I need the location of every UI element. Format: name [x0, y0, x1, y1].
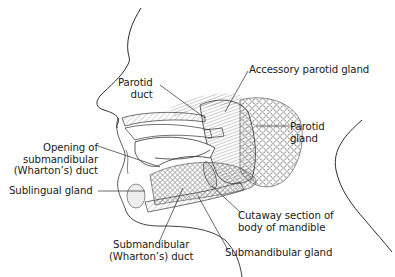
label-line: Opening of	[14, 142, 98, 154]
label-line: (Wharton’s) duct	[14, 165, 98, 177]
label-line: Parotid	[118, 77, 153, 89]
label-sublingual-gland: Sublingual gland	[9, 185, 93, 197]
label-submandibular-duct: Submandibular (Wharton’s) duct	[109, 239, 193, 262]
label-opening-submandibular-duct: Opening of submandibular (Wharton’s) duc…	[14, 142, 98, 177]
label-line: Cutaway section of	[238, 210, 334, 222]
label-cutaway-mandible: Cutaway section of body of mandible	[238, 210, 334, 233]
label-parotid-duct: Parotid duct	[118, 77, 153, 100]
lips	[117, 118, 125, 208]
label-line: duct	[118, 89, 153, 101]
label-line: Submandibular	[109, 239, 193, 251]
label-line: body of mandible	[238, 222, 334, 234]
label-parotid-gland: Parotid gland	[290, 121, 325, 144]
label-line: submandibular	[14, 154, 98, 166]
salivary-gland-diagram: Parotid duct Accessory parotid gland Par…	[0, 0, 395, 277]
label-line: Parotid	[290, 121, 325, 133]
neck-outline	[335, 120, 392, 252]
label-line: gland	[290, 133, 325, 145]
label-submandibular-gland: Submandibular gland	[225, 247, 332, 259]
label-accessory-parotid-gland: Accessory parotid gland	[249, 64, 369, 76]
anatomy-illustration	[0, 0, 395, 277]
tongue	[135, 137, 215, 166]
label-line: (Wharton’s) duct	[109, 251, 193, 263]
palate	[122, 112, 205, 126]
face-profile-outline	[97, 8, 141, 128]
sublingual-gland-shape	[127, 184, 145, 208]
